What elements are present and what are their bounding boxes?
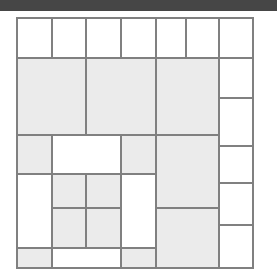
- mosaic-cell: [17, 248, 52, 268]
- mosaic-cells-group: [17, 18, 253, 268]
- mosaic-cell: [156, 208, 219, 268]
- mosaic-cell: [121, 135, 156, 174]
- mosaic-cell: [186, 18, 219, 58]
- mosaic-cell: [156, 18, 186, 58]
- mosaic-cell: [219, 18, 253, 58]
- mosaic-cell: [86, 208, 121, 248]
- mosaic-cell: [86, 174, 121, 208]
- mosaic-cell: [219, 146, 253, 183]
- mosaic-cell: [17, 174, 52, 248]
- mosaic-cell: [52, 208, 86, 248]
- mosaic-cell: [52, 174, 86, 208]
- mosaic-cell: [219, 183, 253, 225]
- mosaic-cell: [156, 135, 219, 208]
- mosaic-cell: [52, 18, 86, 58]
- mosaic-cell: [86, 58, 156, 135]
- mosaic-cell: [121, 248, 156, 268]
- mosaic-cell: [17, 58, 86, 135]
- mosaic-cell: [17, 135, 52, 174]
- mosaic-cell: [121, 174, 156, 248]
- mosaic-cell: [17, 18, 52, 58]
- mosaic-cell: [219, 98, 253, 146]
- mosaic-cell: [52, 135, 121, 174]
- mosaic-cell: [86, 18, 121, 58]
- mosaic-cell: [121, 18, 156, 58]
- mosaic-cell: [156, 58, 219, 135]
- mosaic-cell: [52, 248, 121, 268]
- mosaic-cell: [219, 225, 253, 268]
- mosaic-cell: [219, 58, 253, 98]
- mosaic-diagram-screenshot: [0, 0, 277, 276]
- mosaic-grid-canvas: [0, 0, 277, 276]
